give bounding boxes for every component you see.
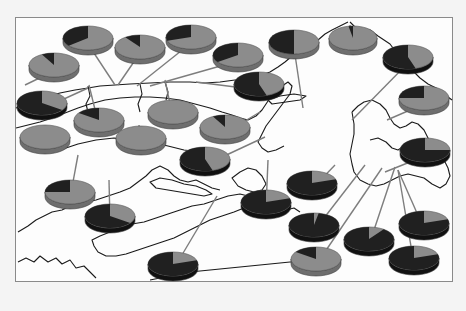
pie-chart-4	[213, 43, 263, 72]
map-canvas	[0, 0, 466, 311]
pie-chart-16	[116, 126, 166, 155]
pie-chart-10	[74, 108, 124, 137]
pie-layer	[17, 25, 450, 281]
river-1	[86, 86, 90, 112]
pie-chart-8	[29, 53, 79, 82]
pie-chart-3	[166, 25, 216, 54]
pie-chart-13	[200, 115, 250, 144]
coastline-cape-breton	[232, 168, 266, 192]
pie-chart-23	[289, 213, 339, 242]
pie-chart-20	[85, 204, 135, 233]
pie-chart-2	[115, 35, 165, 64]
coastline-maine	[18, 256, 96, 278]
pie-chart-7	[383, 45, 433, 74]
pie-slice-dark	[399, 86, 424, 98]
pie-chart-14	[399, 86, 449, 115]
pie-slice-dark	[344, 227, 394, 251]
pie-slice-light	[148, 100, 198, 124]
pie-chart-19	[45, 180, 95, 209]
pie-chart-27	[148, 252, 198, 281]
pie-chart-22	[287, 171, 337, 200]
pie-chart-25	[399, 211, 449, 240]
pie-chart-6	[329, 26, 377, 55]
pie-chart-11	[148, 100, 198, 129]
pie-chart-17	[180, 147, 230, 176]
pie-chart-5	[269, 30, 319, 59]
pie-slice-light	[20, 125, 70, 149]
river-2	[138, 84, 142, 112]
pie-slice-dark	[289, 213, 339, 237]
pie-slice-dark	[45, 180, 70, 192]
pie-chart-24	[344, 227, 394, 256]
pie-chart-21	[241, 190, 291, 219]
pie-chart-9	[17, 91, 67, 120]
pie-chart-1	[63, 26, 113, 55]
pie-chart-15	[20, 125, 70, 154]
pie-chart-28	[291, 247, 341, 276]
pie-chart-18	[400, 138, 450, 167]
pie-chart-26	[389, 246, 439, 275]
pie-chart-12	[234, 72, 284, 101]
pie-slice-light	[116, 126, 166, 150]
